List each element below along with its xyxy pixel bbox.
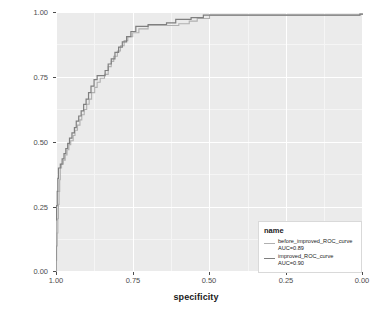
- y-tick-mark: [53, 12, 56, 13]
- legend-item-auc: AUC=0.90: [278, 260, 333, 267]
- roc-chart: 1.00 0.75 0.50 0.25 0.00 1.00 0.75 0.50 …: [0, 0, 392, 312]
- x-tick-label-3: 0.50: [189, 276, 229, 285]
- x-tick-mark: [56, 272, 57, 275]
- legend-item-text: improved_ROC_curve AUC=0.90: [278, 253, 333, 266]
- x-tick-mark: [133, 272, 134, 275]
- chart-legend: name before_improved_ROC_curve AUC=0.89 …: [258, 221, 362, 273]
- x-tick-mark: [209, 272, 210, 275]
- legend-key-line-icon: [264, 254, 275, 263]
- legend-item-improved[interactable]: improved_ROC_curve AUC=0.90: [264, 253, 357, 266]
- y-tick-label-2: 0.75: [8, 73, 48, 82]
- x-tick-label-1: 1.00: [36, 276, 76, 285]
- y-tick-mark: [53, 207, 56, 208]
- legend-item-text: before_improved_ROC_curve AUC=0.89: [278, 238, 352, 251]
- x-axis-title: specificity: [0, 292, 392, 302]
- legend-key-line-icon: [264, 239, 275, 248]
- legend-item-auc: AUC=0.89: [278, 245, 352, 252]
- x-tick-label-5: 0.00: [342, 276, 382, 285]
- y-tick-label-3: 0.50: [8, 138, 48, 147]
- y-tick-label-1: 1.00: [8, 8, 48, 17]
- legend-item-label: before_improved_ROC_curve: [278, 238, 352, 244]
- x-tick-label-2: 0.75: [113, 276, 153, 285]
- legend-title: name: [264, 226, 357, 235]
- y-tick-label-4: 0.25: [8, 203, 48, 212]
- x-tick-label-4: 0.25: [266, 276, 306, 285]
- y-tick-mark: [53, 77, 56, 78]
- y-tick-label-5: 0.00: [8, 267, 48, 276]
- legend-item-label: improved_ROC_curve: [278, 253, 333, 259]
- legend-item-before-improved[interactable]: before_improved_ROC_curve AUC=0.89: [264, 238, 357, 251]
- y-tick-mark: [53, 142, 56, 143]
- x-tick-mark: [362, 272, 363, 275]
